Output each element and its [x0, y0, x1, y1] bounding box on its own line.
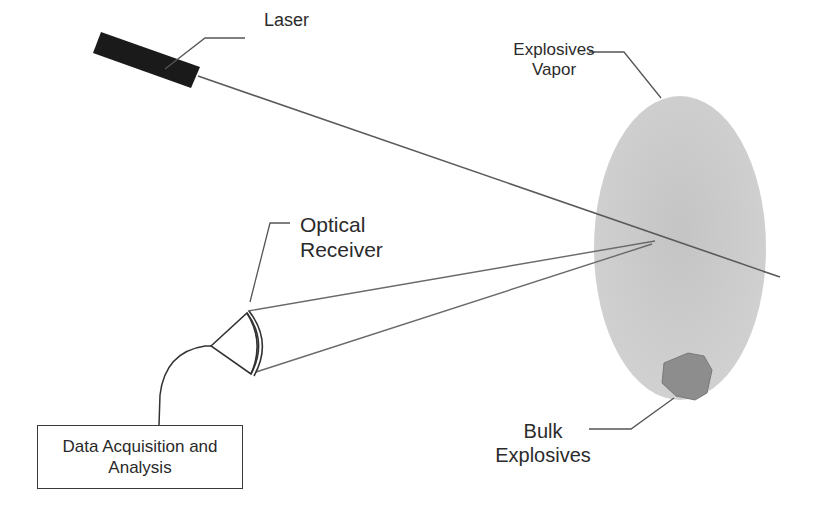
bulk-explosives-line1: Bulk — [478, 419, 608, 443]
data-box-line2: Analysis — [63, 457, 218, 478]
laser-label: Laser — [264, 9, 309, 31]
explosives-vapor-label: Explosives Vapor — [489, 40, 619, 80]
optical-receiver-label: Optical Receiver — [300, 212, 383, 262]
receiver-leader-line — [250, 223, 290, 302]
bulk-explosives-label: Bulk Explosives — [478, 419, 608, 467]
laser-device — [93, 32, 200, 88]
data-box-line1: Data Acquisition and — [63, 436, 218, 457]
data-acquisition-box: Data Acquisition and Analysis — [37, 425, 243, 489]
bulk-explosives-line2: Explosives — [478, 443, 608, 467]
optical-receiver-line1: Optical — [300, 212, 383, 237]
explosives-vapor-cloud — [594, 96, 766, 400]
optical-receiver-icon — [211, 311, 262, 376]
explosives-vapor-line1: Explosives — [489, 40, 619, 60]
receiver-cable — [159, 346, 211, 425]
explosives-vapor-line2: Vapor — [489, 60, 619, 80]
optical-receiver-line2: Receiver — [300, 237, 383, 262]
return-ray-lower — [256, 244, 652, 372]
